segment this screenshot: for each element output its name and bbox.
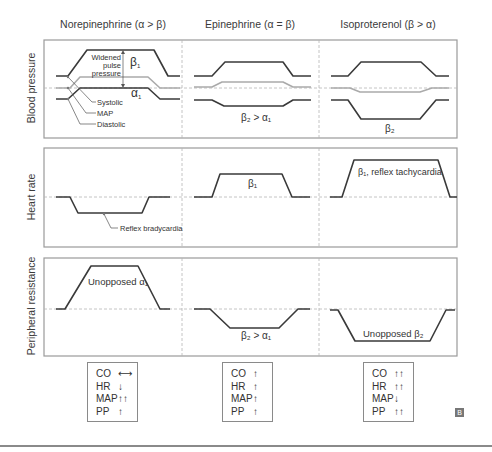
label-pr-norepi: Unopposed α₁ [88, 276, 148, 287]
leader-diastolic [68, 99, 96, 124]
summary-value: ↑ [253, 406, 258, 419]
label-pr-epi: β₂ > α₁ [241, 330, 272, 341]
summary-key: HR [96, 381, 118, 394]
label-hr-epi: β₁ [248, 178, 258, 189]
publisher-logo-icon: B [455, 408, 464, 417]
label-bp-iso: β₂ [385, 123, 395, 134]
summary-key: HR [372, 381, 394, 394]
bp-epi-map-line [194, 82, 311, 87]
label-bp-epi: β₂ > α₁ [241, 112, 272, 123]
hr-iso-line [330, 160, 457, 197]
label-beta1-norepi: β1 [130, 55, 141, 69]
summary-value: ↑↑ [394, 368, 404, 381]
summary-value: ↑↑ [118, 393, 128, 406]
bp-epi-diastolic-line [194, 100, 311, 106]
summary-value: ↑ [253, 381, 258, 394]
summary-value: ↑ [253, 393, 258, 406]
summary-key: MAP [231, 393, 253, 406]
summary-value: ↑ [253, 368, 258, 381]
leader-systolic [68, 77, 96, 102]
summary-key: PP [372, 406, 394, 419]
label-hr-iso: β₁, reflex tachycardia [358, 167, 442, 177]
leader-reflex-brady [104, 214, 118, 228]
hr-norepi-line [56, 197, 170, 213]
bp-iso-systolic-line [331, 62, 449, 76]
summary-key: HR [231, 381, 253, 394]
label-diastolic: Diastolic [97, 120, 126, 129]
panel-heart-rate [44, 148, 457, 247]
summary-value: ⟷ [118, 368, 132, 381]
label-pr-iso: Unopposed β₂ [363, 328, 424, 339]
summary-value: ↑ [118, 406, 123, 419]
summary-value: ↓ [118, 381, 123, 394]
bp-iso-diastolic-line [331, 100, 449, 119]
summary-box-isoproterenol: CO↑↑ HR↑↑ MAP↓ PP↑↑ [363, 362, 414, 422]
summary-key: CO [372, 368, 394, 381]
summary-key: MAP [372, 393, 394, 406]
summary-box-epinephrine: CO↑ HR↑ MAP↑ PP↑ [222, 362, 273, 422]
label-systolic: Systolic [97, 98, 123, 107]
bottom-divider [0, 445, 492, 447]
bp-epi-systolic-line [194, 62, 311, 76]
summary-value: ↑↑ [394, 406, 404, 419]
summary-key: PP [96, 406, 118, 419]
summary-key: CO [96, 368, 118, 381]
summary-value: ↓ [394, 393, 399, 406]
summary-key: MAP [96, 393, 118, 406]
summary-box-norepinephrine: CO⟷ HR↓ MAP↑↑ PP↑ [87, 362, 138, 422]
summary-key: CO [231, 368, 253, 381]
label-map: MAP [97, 109, 113, 118]
bp-iso-map-line [331, 88, 449, 92]
pr-epi-line [194, 309, 310, 328]
summary-value: ↑↑ [394, 381, 404, 394]
summary-key: PP [231, 406, 253, 419]
label-reflex-brady: Reflex bradycardia [120, 224, 183, 233]
pr-norepi-line [56, 266, 170, 309]
label-pressure: pressure [92, 69, 121, 78]
bp-norepi-map-line [56, 77, 180, 88]
